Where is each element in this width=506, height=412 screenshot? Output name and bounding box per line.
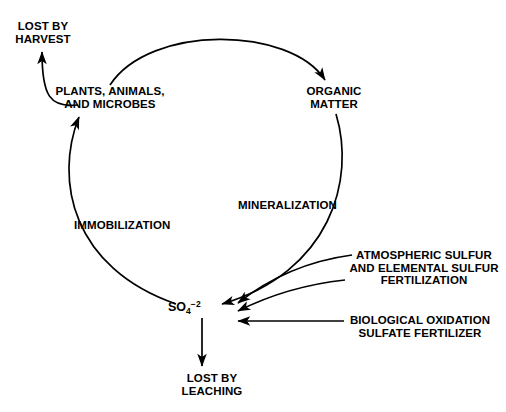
process-label-immobilization: IMMOBILIZATION bbox=[74, 219, 180, 232]
sulfate-base: SO bbox=[168, 300, 186, 314]
node-label-lost-by-harvest: LOST BY HARVEST bbox=[8, 20, 78, 45]
node-label-sulfate-ion: SO4−2 bbox=[168, 299, 230, 316]
process-label-mineralization: MINERALIZATION bbox=[238, 199, 338, 212]
process-label-atmospheric-sulfur: ATMOSPHERIC SULFUR AND ELEMENTAL SULFUR … bbox=[348, 249, 500, 287]
arrow-plants-to-organic-matter bbox=[110, 39, 325, 85]
sulfur-cycle-diagram: LOST BY HARVEST PLANTS, ANIMALS, AND MIC… bbox=[0, 0, 506, 412]
arrow-sulfate-to-plants bbox=[69, 117, 176, 304]
node-label-organic-matter: ORGANIC MATTER bbox=[300, 85, 368, 110]
sulfate-superscript: −2 bbox=[191, 299, 201, 309]
arrow-atmospheric-to-sulfate bbox=[238, 255, 352, 303]
node-label-lost-by-leaching: LOST BY LEACHING bbox=[166, 372, 258, 397]
arrow-elemental-to-sulfate bbox=[238, 280, 345, 311]
node-label-plants-animals-microbes: PLANTS, ANIMALS, AND MICROBES bbox=[50, 85, 170, 110]
process-label-biological-oxidation: BIOLOGICAL OXIDATION SULFATE FERTILIZER bbox=[344, 314, 496, 339]
